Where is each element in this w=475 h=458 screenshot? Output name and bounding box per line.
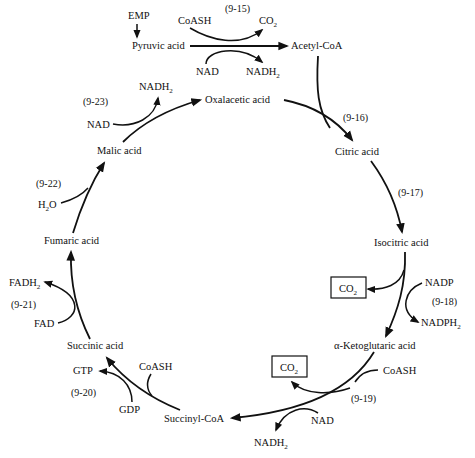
reaction-label-9-23: (9-23)	[83, 96, 108, 108]
cofactor-nadp: NADP	[425, 277, 454, 288]
arrow-coash-in-9-20	[148, 374, 152, 396]
reaction-label-9-21: (9-21)	[11, 299, 36, 311]
reaction-label-9-18: (9-18)	[432, 296, 457, 308]
arrow-isocitric-co2	[368, 270, 404, 289]
reaction-label-9-15: (9-15)	[225, 3, 250, 15]
node-succinic-acid: Succinic acid	[67, 340, 124, 351]
cofactor-nad-9-23: NAD	[87, 119, 110, 130]
cofactor-gdp: GDP	[119, 404, 140, 415]
node-succinyl-coa: Succinyl-CoA	[164, 413, 224, 424]
cofactor-h2o: H2O	[38, 199, 57, 213]
cofactor-coash-9-20: CoASH	[139, 361, 173, 372]
arrow-fumaric-to-malic	[73, 163, 104, 233]
node-emp: EMP	[128, 10, 150, 21]
reaction-label-9-20: (9-20)	[71, 387, 96, 399]
reaction-label-9-17: (9-17)	[398, 187, 423, 199]
arrow-nad-nadh2	[206, 51, 262, 64]
arrow-succinic-to-fumaric	[71, 252, 90, 339]
node-malic-acid: Malic acid	[97, 145, 142, 156]
arrow-isocitric-to-ketoglutaric	[386, 252, 405, 336]
arrow-ketoglutaric-co2	[292, 382, 350, 393]
arrow-coash-co2	[190, 28, 262, 41]
node-citric-acid: Citric acid	[335, 146, 380, 157]
cofactor-fadh2: FADH2	[9, 277, 41, 291]
arrow-fad-fadh2	[45, 282, 75, 323]
reaction-label-9-22: (9-22)	[36, 178, 61, 190]
cofactor-coash-9-19: CoASH	[383, 365, 417, 376]
arrow-oxalacetic-to-citric	[284, 100, 352, 140]
cofactor-co2: CO2	[259, 15, 278, 29]
cofactor-nadh2-9-19: NADH2	[254, 437, 288, 451]
cofactor-nadph2: NADPH2	[421, 317, 461, 331]
arrow-gdp-gtp	[100, 371, 132, 402]
cofactor-nad-9-19: NAD	[311, 415, 334, 426]
cofactor-coash: CoASH	[178, 15, 212, 26]
cofactor-nadh2-9-23: NADH2	[139, 81, 173, 95]
reaction-label-9-19: (9-19)	[351, 393, 376, 405]
arrow-malic-to-oxalacetic	[123, 100, 200, 142]
node-ketoglutaric-acid: α-Ketoglutaric acid	[334, 340, 416, 351]
node-isocitric-acid: Isocitric acid	[374, 237, 429, 248]
cofactor-nad: NAD	[196, 66, 219, 77]
node-oxalacetic-acid: Oxalacetic acid	[205, 94, 271, 105]
cofactor-gtp: GTP	[73, 365, 93, 376]
cofactor-fad: FAD	[34, 318, 55, 329]
tca-cycle-diagram: EMP Pyruvic acid Acetyl-CoA Oxalacetic a…	[0, 0, 475, 458]
node-acetyl-coa: Acetyl-CoA	[291, 40, 343, 51]
arrow-nadp-nadph2	[406, 283, 422, 322]
cofactor-nadh2: NADH2	[246, 66, 280, 80]
node-fumaric-acid: Fumaric acid	[44, 235, 100, 246]
node-pyruvic-acid: Pyruvic acid	[132, 40, 186, 51]
reaction-label-9-16: (9-16)	[343, 112, 368, 124]
